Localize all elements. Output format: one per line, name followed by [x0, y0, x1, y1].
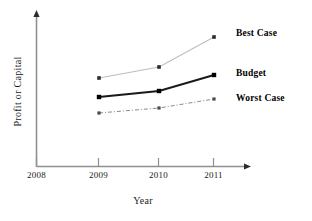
- series-line-best-case: [99, 37, 214, 78]
- marker-budget-2009: [97, 95, 101, 99]
- series-label-worst-case: Worst Case: [236, 93, 285, 103]
- marker-budget-2010: [157, 89, 161, 93]
- marker-best-case-2010: [157, 65, 161, 69]
- series-label-budget: Budget: [236, 68, 266, 78]
- marker-worst-case-2009: [97, 111, 100, 114]
- series-line-budget: [99, 75, 214, 97]
- series-line-worst-case: [99, 99, 214, 113]
- x-tick-label-2011: 2011: [193, 170, 234, 180]
- marker-best-case-2009: [97, 76, 101, 80]
- marker-worst-case-2010: [157, 106, 160, 109]
- x-tick-label-2010: 2010: [138, 170, 179, 180]
- y-axis-arrowhead: [33, 10, 39, 17]
- marker-best-case-2011: [212, 35, 216, 39]
- marker-worst-case-2011: [212, 97, 215, 100]
- marker-budget-2011: [212, 73, 216, 77]
- series-label-best-case: Best Case: [236, 28, 277, 38]
- x-axis-title: Year: [113, 195, 173, 206]
- x-axis-arrowhead: [244, 163, 251, 169]
- x-tick-label-2008: 2008: [16, 170, 57, 180]
- y-axis-title: Profit or Capital: [12, 42, 23, 142]
- scenario-line-chart: Profit or Capital 2008 2009 2010 2011 Ye…: [0, 0, 312, 221]
- x-tick-label-2009: 2009: [78, 170, 119, 180]
